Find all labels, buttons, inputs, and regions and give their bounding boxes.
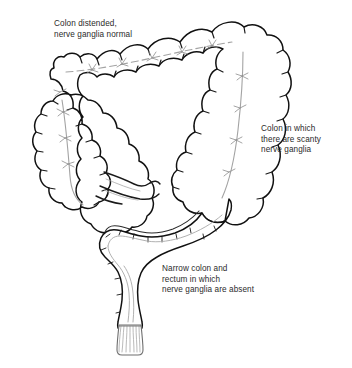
- colon-body-path: [33, 22, 291, 233]
- dilated-colon-outline: [33, 22, 291, 233]
- colon-illustration: [0, 0, 352, 368]
- label-colon-scanty-ganglia: Colon in which there are scanty nerve ga…: [261, 124, 321, 156]
- label-colon-distended: Colon distended, nerve ganglia normal: [54, 19, 132, 40]
- anal-canal: [117, 325, 143, 355]
- label-narrow-colon-rectum: Narrow colon and rectum in which nerve g…: [162, 264, 254, 296]
- colon-diagram-figure: Colon distended, nerve ganglia normal Co…: [0, 0, 352, 368]
